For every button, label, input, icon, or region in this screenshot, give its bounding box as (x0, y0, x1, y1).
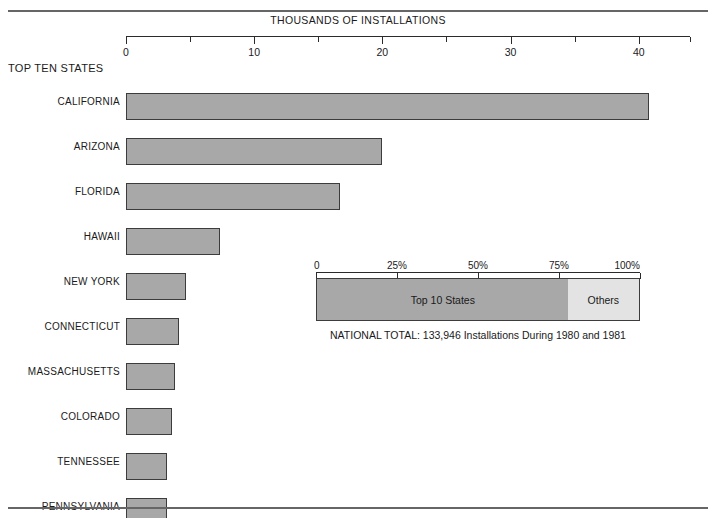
bar (126, 363, 175, 390)
inset-segment: Others (568, 279, 639, 320)
x-axis-tick (254, 37, 255, 44)
bar-row: PENNSYLVANIA (0, 490, 716, 518)
x-axis-tick (511, 37, 512, 44)
x-axis: 010203040 (126, 36, 690, 37)
x-axis-tick (126, 37, 127, 44)
x-axis-tick-label: 20 (377, 46, 389, 58)
bar-category-label: CALIFORNIA (57, 96, 120, 107)
bar (126, 408, 172, 435)
x-axis-tick-label: 40 (633, 46, 645, 58)
bar (126, 228, 220, 255)
bar (126, 93, 649, 120)
bar-row: TENNESSEE (0, 445, 716, 490)
inset-segment-label: Top 10 States (411, 294, 475, 306)
x-axis-tick (575, 37, 576, 42)
bar (126, 138, 382, 165)
bottom-divider-rule (8, 507, 708, 509)
chart-page: THOUSANDS OF INSTALLATIONS 010203040 TOP… (0, 0, 716, 518)
bar-category-label: FLORIDA (75, 186, 120, 197)
x-axis-tick-label: 10 (248, 46, 260, 58)
bar (126, 273, 186, 300)
bar-category-label: NEW YORK (64, 276, 120, 287)
inset-axis-tick-label: 75% (549, 260, 569, 271)
section-label: TOP TEN STATES (8, 62, 103, 74)
x-axis-tick (382, 37, 383, 44)
x-axis-tick (446, 37, 447, 42)
bar-row: CALIFORNIA (0, 85, 716, 130)
inset-x-axis: 025%50%75%100% (316, 272, 640, 273)
inset-caption: NATIONAL TOTAL: 133,946 Installations Du… (330, 329, 626, 341)
bar-row: HAWAII (0, 220, 716, 265)
bar-category-label: ARIZONA (74, 141, 120, 152)
x-axis-tick (690, 37, 691, 42)
x-axis-tick (639, 37, 640, 44)
bar-row: COLORADO (0, 400, 716, 445)
bar (126, 453, 167, 480)
bar-row: MASSACHUSETTS (0, 355, 716, 400)
bar-category-label: MASSACHUSETTS (28, 366, 120, 377)
inset-axis-tick-label: 50% (468, 260, 488, 271)
inset-axis-tick-label: 0 (314, 260, 320, 271)
x-axis-tick (190, 37, 191, 42)
bar-category-label: HAWAII (84, 231, 120, 242)
inset-axis-tick-label: 100% (614, 260, 640, 271)
bar-category-label: TENNESSEE (57, 456, 120, 467)
top-divider-rule (8, 10, 708, 12)
chart-axis-title: THOUSANDS OF INSTALLATIONS (0, 14, 716, 26)
bar-row: ARIZONA (0, 130, 716, 175)
inset-segment: Top 10 States (317, 279, 570, 320)
inset-axis-tick (640, 273, 641, 279)
bar (126, 183, 340, 210)
inset-stacked-bar: Top 10 StatesOthers (316, 278, 640, 321)
bar-category-label: COLORADO (61, 411, 120, 422)
inset-segment-label: Others (588, 294, 620, 306)
inset-axis-tick-label: 25% (387, 260, 407, 271)
bar-category-label: CONNECTICUT (44, 321, 120, 332)
bar-row: FLORIDA (0, 175, 716, 220)
bar (126, 318, 179, 345)
x-axis-tick (318, 37, 319, 42)
x-axis-tick-label: 30 (505, 46, 517, 58)
x-axis-tick-label: 0 (123, 46, 129, 58)
